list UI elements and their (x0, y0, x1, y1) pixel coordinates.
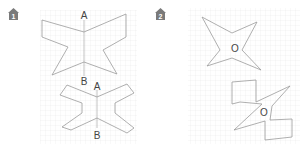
bottom-figure-label-a: A (94, 81, 101, 92)
panel-2-grid (188, 8, 300, 144)
top-figure-label-a: A (81, 10, 88, 21)
star-figure-center-label: O (231, 43, 239, 54)
pinwheel-figure-center-label: O (260, 107, 268, 118)
bottom-figure-label-b: B (94, 130, 101, 141)
diagram-canvas: A B A B O O (0, 0, 305, 147)
top-figure-label-b: B (81, 76, 88, 87)
